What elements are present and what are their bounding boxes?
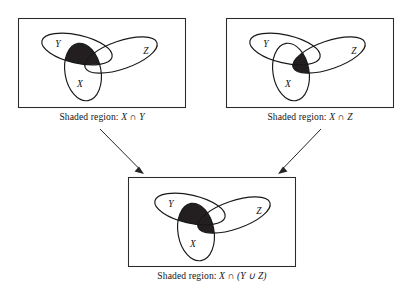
- caption-expression-top-left: X ∩ Y: [121, 111, 144, 122]
- set-label-z-bottom: Z: [256, 206, 262, 216]
- arrow-left-head: [135, 167, 145, 175]
- caption-expression-bottom: X ∩ (Y ∪ Z): [219, 270, 267, 281]
- arrow-left-shaft: [100, 129, 140, 169]
- caption-bottom: Shaded region: X ∩ (Y ∪ Z): [110, 270, 314, 281]
- arrow-right: [278, 129, 321, 174]
- set-label-z-top-right: Z: [351, 46, 357, 56]
- set-label-z-top-left: Z: [143, 46, 149, 56]
- panel-top-left: Y Z X: [18, 18, 186, 108]
- set-label-x-top-right: X: [284, 79, 292, 89]
- figure-canvas: Y Z X Y Z X: [0, 0, 416, 293]
- set-label-x-top-left: X: [76, 79, 84, 89]
- panel-border-top-left: [19, 19, 186, 108]
- panel-top-right: Y Z X: [226, 18, 394, 108]
- caption-prefix-top-right: Shaded region:: [267, 111, 326, 122]
- caption-prefix-top-left: Shaded region:: [59, 111, 118, 122]
- arrow-right-head: [278, 167, 288, 175]
- caption-expression-top-right: X ∩ Z: [329, 111, 352, 122]
- caption-top-left: Shaded region: X ∩ Y: [0, 111, 204, 122]
- set-label-x-bottom: X: [189, 239, 197, 249]
- caption-top-right: Shaded region: X ∩ Z: [208, 111, 412, 122]
- arrow-left: [100, 129, 144, 174]
- panel-border-top-right: [227, 19, 394, 108]
- caption-prefix-bottom: Shaded region:: [157, 270, 216, 281]
- arrow-right-shaft: [283, 129, 322, 169]
- venn-distributive-figure: Y Z X Y Z X: [0, 0, 416, 293]
- panel-bottom: Y Z X: [128, 177, 296, 267]
